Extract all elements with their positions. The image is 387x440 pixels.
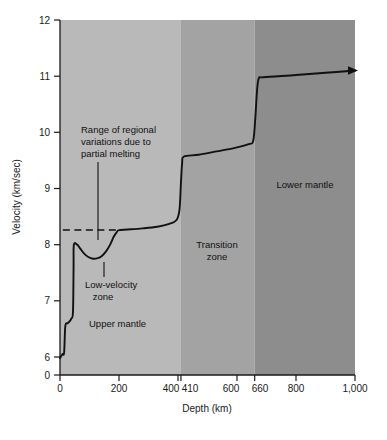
zone-band-lower-mantle xyxy=(255,20,355,375)
x-tick-label-410: 410 xyxy=(182,383,199,394)
x-axis-title: Depth (km) xyxy=(182,403,231,414)
zone-label-transition-zone-line1: Transition xyxy=(196,239,237,250)
y-tick-label-9: 9 xyxy=(44,183,50,194)
range-annotation-line1: Range of regional xyxy=(81,124,156,135)
x-tick-label-200: 200 xyxy=(111,383,128,394)
x-tick-label-1000: 1,000 xyxy=(342,383,367,394)
y-tick-label-11: 11 xyxy=(40,71,51,82)
range-annotation-line3: partial melting xyxy=(81,148,140,159)
x-tick-label-660: 660 xyxy=(252,383,269,394)
y-axis-title: Velocity (km/sec) xyxy=(11,159,22,235)
y-tick-label-10: 10 xyxy=(39,127,51,138)
y-tick-label-6: 6 xyxy=(44,352,50,363)
zone-label-lower-mantle: Lower mantle xyxy=(276,179,333,190)
y-tick-label-7: 7 xyxy=(44,295,50,306)
x-tick-label-600: 600 xyxy=(223,383,240,394)
x-tick-label-400: 400 xyxy=(163,383,180,394)
y-tick-label-8: 8 xyxy=(44,239,50,250)
chart-svg: 12 11 10 9 8 7 6 0 0 200 400 410 600 66 xyxy=(0,0,387,440)
y-tick-label-0: 0 xyxy=(44,370,50,381)
x-tick-label-800: 800 xyxy=(288,383,305,394)
x-tick-label-0: 0 xyxy=(57,383,63,394)
zone-label-upper-mantle: Upper mantle xyxy=(89,318,146,329)
lvz-annotation-line1: Low-velocity xyxy=(85,279,138,290)
zone-label-transition-zone-line2: zone xyxy=(207,251,228,262)
range-annotation-line2: variations due to xyxy=(81,136,151,147)
zone-band-transition-zone xyxy=(181,20,255,375)
seismic-velocity-depth-chart: 12 11 10 9 8 7 6 0 0 200 400 410 600 66 xyxy=(0,0,387,440)
y-tick-label-12: 12 xyxy=(39,15,51,26)
lvz-annotation-line2: zone xyxy=(93,291,114,302)
